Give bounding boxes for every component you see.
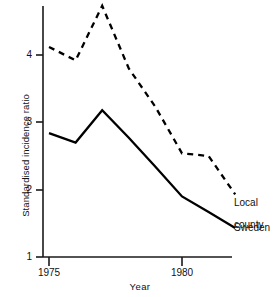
series-label-local-county-line1: Local xyxy=(234,197,258,208)
chart-figure: 4 3 2 1 1975 1980 Standardised incidence… xyxy=(0,0,279,297)
y-axis-title: Standardised incidence ratio xyxy=(20,66,31,246)
x-axis-ticks xyxy=(49,257,182,266)
series-line-local-county xyxy=(49,6,235,195)
x-axis-title: Year xyxy=(60,281,220,292)
x-tick-label-1980: 1980 xyxy=(162,267,202,278)
chart-plot-area xyxy=(0,0,279,297)
y-axis-ticks xyxy=(36,55,43,257)
y-tick-label-1: 1 xyxy=(16,251,32,262)
y-tick-label-4: 4 xyxy=(16,49,32,60)
series-line-sweden xyxy=(49,110,235,228)
series-label-sweden: Sweden xyxy=(234,222,270,233)
x-tick-label-1975: 1975 xyxy=(29,267,69,278)
